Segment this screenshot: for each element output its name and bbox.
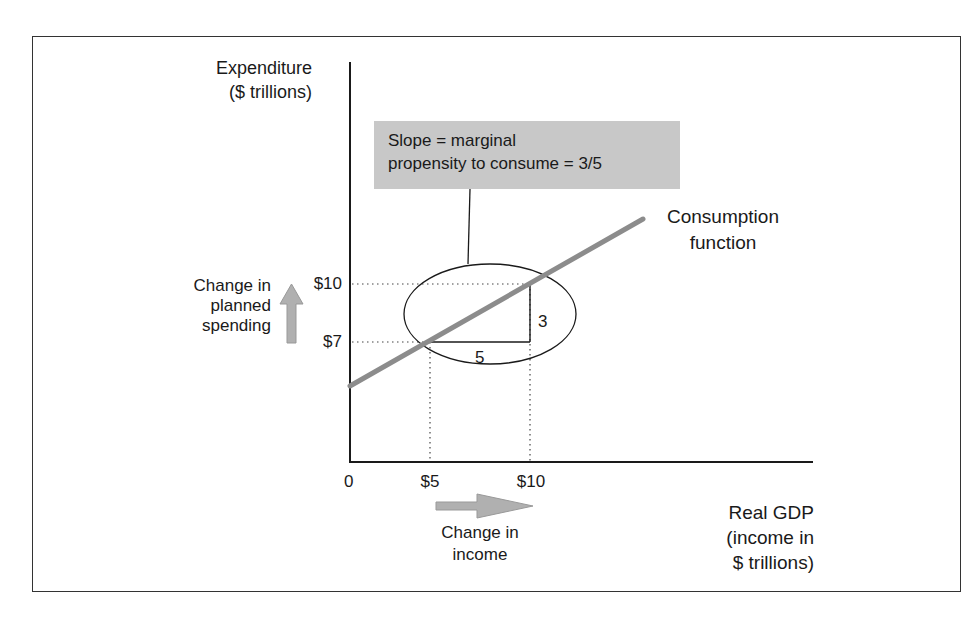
highlight-ellipse xyxy=(404,264,576,364)
callout-line2: propensity to consume = 3/5 xyxy=(388,152,680,175)
series-label-line1: Consumption xyxy=(640,204,806,230)
consumption-function-label: Consumption function xyxy=(640,204,806,256)
planned-spending-line1: Change in xyxy=(160,276,271,296)
arrow-right-icon xyxy=(436,494,533,518)
rise-label: 3 xyxy=(538,311,547,332)
y-axis-label-line2: ($ trillions) xyxy=(150,80,312,104)
x-axis-label-line1: Real GDP xyxy=(660,500,814,525)
income-change-line2: income xyxy=(420,544,540,566)
y-axis-label: Expenditure ($ trillions) xyxy=(150,56,312,104)
planned-spending-line2: planned xyxy=(160,296,271,316)
y-tick-10: $10 xyxy=(290,273,342,294)
y-tick-7: $7 xyxy=(290,331,342,352)
income-change-label: Change in income xyxy=(420,522,540,566)
series-label-line2: function xyxy=(640,230,806,256)
planned-spending-line3: spending xyxy=(160,316,271,336)
slope-callout-box: Slope = marginal propensity to consume =… xyxy=(374,121,680,189)
x-axis-label-line2: (income in xyxy=(660,525,814,550)
x-axis-label: Real GDP (income in $ trillions) xyxy=(660,500,814,575)
callout-leader xyxy=(468,189,470,264)
run-label: 5 xyxy=(475,347,484,368)
y-axis-label-line1: Expenditure xyxy=(150,56,312,80)
x-tick-origin: 0 xyxy=(344,471,353,492)
x-axis-label-line3: $ trillions) xyxy=(660,550,814,575)
consumption-function-line xyxy=(350,219,643,386)
income-change-line1: Change in xyxy=(420,522,540,544)
x-tick-10: $10 xyxy=(508,471,554,492)
planned-spending-label: Change in planned spending xyxy=(160,276,271,336)
x-tick-5: $5 xyxy=(410,471,450,492)
callout-line1: Slope = marginal xyxy=(388,129,680,152)
